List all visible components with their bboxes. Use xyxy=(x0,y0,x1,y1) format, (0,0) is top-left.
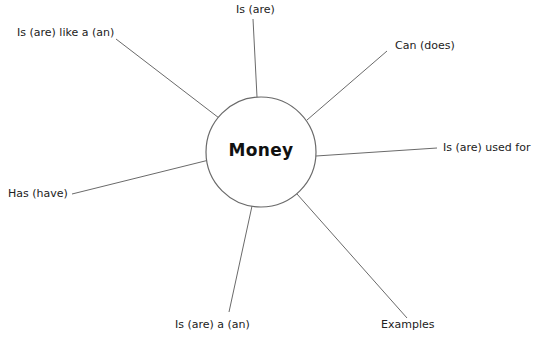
spoke-label-can-does: Can (does) xyxy=(395,39,455,53)
spoke-label-is-a: Is (are) a (an) xyxy=(175,318,250,332)
spoke-label-is-like-a: Is (are) like a (an) xyxy=(17,26,114,40)
center-label-money: Money xyxy=(206,140,316,160)
spoke-label-has-have: Has (have) xyxy=(8,187,68,201)
spoke-label-examples: Examples xyxy=(381,318,434,332)
spoke-label-used-for: Is (are) used for xyxy=(443,141,530,155)
spoke-label-is-are: Is (are) xyxy=(236,3,275,17)
spoke-line-used-for xyxy=(316,148,437,156)
spoke-line-has-have xyxy=(72,160,209,194)
spoke-line-examples xyxy=(297,194,407,318)
spoke-line-is-like xyxy=(116,39,219,118)
concept-web-diagram xyxy=(0,0,540,340)
spoke-line-is-are xyxy=(253,19,257,97)
spoke-line-can-does xyxy=(307,51,387,120)
spoke-line-is-a xyxy=(229,206,252,312)
